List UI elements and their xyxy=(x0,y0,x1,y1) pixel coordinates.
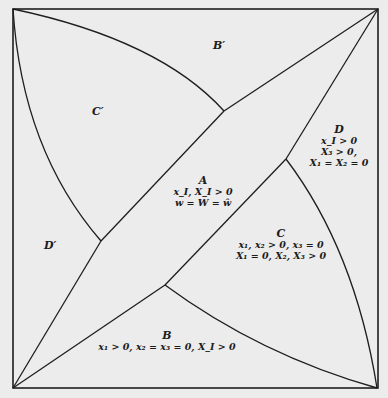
line-bl-left xyxy=(13,241,101,388)
line-top-right xyxy=(224,9,378,111)
region-diagram: B′ C′ D′ D x_I > 0 X₃ > 0, X₁ = X₂ = 0 A… xyxy=(0,0,388,398)
region-label-b-prime: B′ xyxy=(213,40,225,51)
curve-top xyxy=(13,9,224,111)
curve-left xyxy=(13,9,101,241)
region-label-a: A x_I, X_I > 0 w = W = ŵ xyxy=(158,175,248,208)
region-label-d: D x_I > 0 X₃ > 0, X₁ = X₂ = 0 xyxy=(302,124,376,168)
curve-right xyxy=(286,159,377,388)
region-label-c-prime: C′ xyxy=(92,106,104,117)
region-label-b: B x₁ > 0, x₂ = x₃ = 0, X_I > 0 xyxy=(92,330,242,352)
region-label-c: C x₁, x₂ > 0, x₃ = 0 X₁ = 0, X₂, X₃ > 0 xyxy=(225,228,337,261)
region-label-d-prime: D′ xyxy=(44,240,56,251)
